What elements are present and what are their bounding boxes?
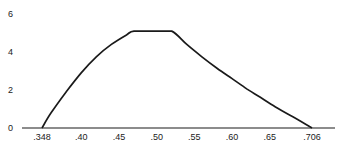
data-curve (42, 31, 312, 128)
y-tick-label: 4 (8, 47, 13, 57)
x-tick-label: .50 (150, 132, 163, 142)
x-tick-label: .60 (226, 132, 239, 142)
line-chart: 0246 .348.40.45.50.55.60.65.706 (0, 0, 349, 148)
y-tick-label: 6 (8, 9, 13, 19)
x-axis-labels: .348.40.45.50.55.60.65.706 (33, 132, 321, 142)
x-tick-label: .55 (188, 132, 201, 142)
y-tick-label: 2 (8, 85, 13, 95)
y-tick-label: 0 (8, 123, 13, 133)
x-tick-label: .45 (113, 132, 126, 142)
x-tick-label: .65 (264, 132, 277, 142)
x-tick-label: .348 (33, 132, 51, 142)
x-tick-label: .706 (303, 132, 321, 142)
y-axis-labels: 0246 (8, 9, 13, 133)
x-tick-label: .40 (75, 132, 88, 142)
